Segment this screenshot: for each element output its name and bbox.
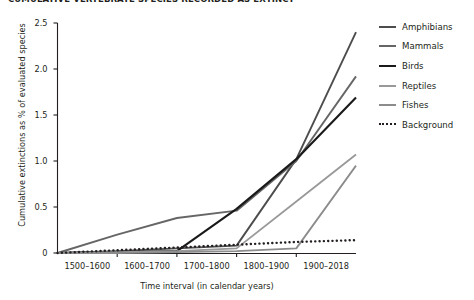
x-tick-label: 1700–1800 (174, 261, 240, 271)
data-series-group (58, 32, 357, 253)
y-tick-label: 0 (20, 249, 48, 257)
legend-item-background[interactable]: Background (379, 115, 474, 135)
x-tick-label: 1500–1600 (54, 261, 120, 271)
legend-swatch-icon (379, 61, 396, 71)
legend-swatch-icon (379, 100, 396, 110)
y-axis-ticks (54, 23, 58, 253)
chart-figure: CUMULATIVE VERTEBRATE SPECIES RECORDED A… (0, 0, 474, 300)
legend-swatch-icon (379, 120, 396, 130)
x-tick-label: 1900–2018 (293, 261, 359, 271)
legend-item-fishes[interactable]: Fishes (379, 95, 474, 115)
legend-swatch-icon (379, 41, 396, 51)
legend-item-birds[interactable]: Birds (379, 56, 474, 76)
legend-label: Amphibians (402, 22, 453, 32)
legend-swatch-icon (379, 81, 396, 91)
legend-swatch-icon (379, 22, 396, 32)
x-tick-label: 1800–1900 (233, 261, 299, 271)
chart-legend: AmphibiansMammalsBirdsReptilesFishesBack… (379, 17, 474, 135)
x-tick-label: 1600–1700 (114, 261, 180, 271)
legend-label: Fishes (402, 100, 428, 110)
legend-label: Mammals (402, 41, 444, 51)
legend-label: Birds (402, 61, 424, 71)
legend-item-mammals[interactable]: Mammals (379, 37, 474, 57)
legend-label: Reptiles (402, 81, 436, 91)
series-line-birds (58, 98, 357, 253)
legend-item-reptiles[interactable]: Reptiles (379, 76, 474, 96)
x-axis-label: Time interval (in calendar years) (57, 281, 357, 291)
legend-item-amphibians[interactable]: Amphibians (379, 17, 474, 37)
legend-label: Background (402, 120, 453, 130)
y-axis-label: Cumulative extinctions as % of evaluated… (17, 20, 27, 230)
